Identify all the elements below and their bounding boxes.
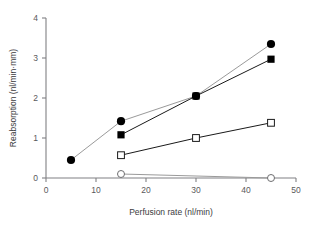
open-circle-marker [118, 171, 125, 178]
x-tick-label: 10 [91, 185, 101, 195]
open-circle-marker [268, 175, 275, 182]
y-axis-title: Reabsorption (nl/min·mm) [8, 49, 18, 147]
x-tick-label: 30 [191, 185, 201, 195]
x-tick-label: 50 [291, 185, 301, 195]
y-axis-ticks [42, 18, 46, 178]
chart-figure: 01234 01020304050 Perfusion rate (nl/min… [0, 0, 313, 229]
series-lines [71, 44, 271, 178]
axes [46, 18, 296, 178]
filled-circle-marker [267, 40, 275, 48]
filled-circle-marker [67, 156, 75, 164]
open-square-marker [268, 119, 275, 126]
x-tick-label: 40 [241, 185, 251, 195]
x-axis-ticks [46, 178, 296, 182]
x-axis-tick-labels: 01020304050 [44, 185, 301, 195]
filled-square-marker [267, 56, 274, 63]
y-tick-label: 0 [33, 173, 38, 183]
filled-circle-series-line [71, 44, 271, 160]
open-square-marker [118, 152, 125, 159]
open-circle-series-line [121, 174, 271, 178]
x-tick-label: 20 [141, 185, 151, 195]
x-axis-title: Perfusion rate (nl/min) [129, 207, 213, 217]
y-tick-label: 4 [33, 13, 38, 23]
filled-square-marker [117, 131, 124, 138]
y-tick-label: 2 [33, 93, 38, 103]
x-tick-label: 0 [44, 185, 49, 195]
series-markers [67, 40, 275, 182]
filled-circle-marker [117, 117, 125, 125]
open-square-marker [193, 135, 200, 142]
y-tick-label: 1 [33, 133, 38, 143]
y-axis-tick-labels: 01234 [33, 13, 38, 183]
filled-square-marker [192, 92, 199, 99]
plot-svg: 01234 01020304050 Perfusion rate (nl/min… [0, 0, 313, 229]
y-tick-label: 3 [33, 53, 38, 63]
